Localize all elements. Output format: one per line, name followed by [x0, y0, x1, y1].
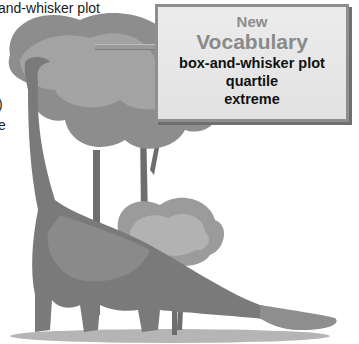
vocab-term-extreme: extreme — [158, 90, 346, 108]
vocab-term-box-and-whisker: box-and-whisker plot — [158, 54, 346, 72]
ground-shadow — [10, 329, 330, 343]
vocab-heading-large: Vocabulary — [158, 30, 346, 54]
callout-connector-line — [95, 44, 157, 50]
vocab-heading-small: New — [158, 13, 346, 30]
vocab-term-quartile: quartile — [158, 72, 346, 90]
new-vocabulary-box: New Vocabulary box-and-whisker plot quar… — [155, 4, 349, 122]
